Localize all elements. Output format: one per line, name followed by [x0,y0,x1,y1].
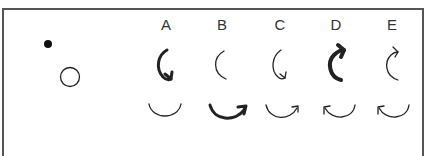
arc-arrow-c-top-icon [273,50,286,79]
arc-arrow-d-bottom-icon [324,105,355,117]
arc-arrow-c-bottom-icon [266,105,298,117]
arc-arrow-e-top-icon [387,47,398,80]
arc-arrow-e-bottom-icon [378,105,409,117]
arc-arrow-b-bottom-icon [210,105,246,118]
hollow-circle-icon [61,68,80,87]
arc-arrow-d-top-icon [330,45,344,80]
arc-a-bottom-icon [149,104,181,116]
filled-dot-icon [44,40,52,48]
arc-arrow-a-top-icon [158,50,172,80]
arc-b-top-icon [216,51,226,79]
